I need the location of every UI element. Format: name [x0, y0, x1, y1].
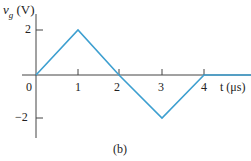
y-tick-label-2: 2: [25, 22, 31, 37]
y-tick-label-neg2: −2: [15, 110, 28, 125]
x-tick-label-4: 4: [201, 80, 207, 95]
x-tick-label-3: 3: [158, 80, 164, 95]
x-tick-label-2: 2: [114, 80, 120, 95]
waveform-line: [36, 30, 251, 118]
figure-caption: (b): [113, 142, 127, 157]
x-tick-label-1: 1: [75, 80, 81, 95]
y-axis-label: vg (V): [3, 2, 35, 20]
x-tick-label-0: 0: [26, 80, 32, 95]
x-axis-label: t (μs): [220, 80, 245, 95]
chart-canvas: [0, 0, 251, 161]
